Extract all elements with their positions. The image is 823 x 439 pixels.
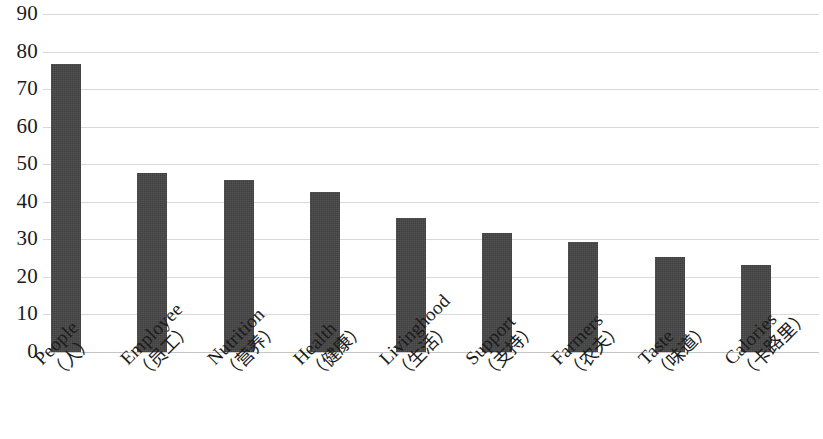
y-axis-tick-label: 90 xyxy=(4,3,38,24)
y-axis-tick-labels: 0102030405060708090 xyxy=(0,0,38,360)
y-axis-tick-label: 40 xyxy=(4,191,38,212)
y-axis-tick-label: 50 xyxy=(4,153,38,174)
y-axis-tick-label: 10 xyxy=(4,303,38,324)
x-axis-category-labels: People（人）Employee（员工）Nutrition（营养）Health… xyxy=(0,354,823,439)
y-axis-tick-label: 20 xyxy=(4,266,38,287)
y-axis-tick-label: 80 xyxy=(4,41,38,62)
y-axis-tick-label: 70 xyxy=(4,78,38,99)
bar-chart: 0102030405060708090 People（人）Employee（员工… xyxy=(0,0,823,439)
y-axis-tick-label: 60 xyxy=(4,116,38,137)
y-axis-tick-label: 30 xyxy=(4,228,38,249)
bar xyxy=(51,64,81,353)
